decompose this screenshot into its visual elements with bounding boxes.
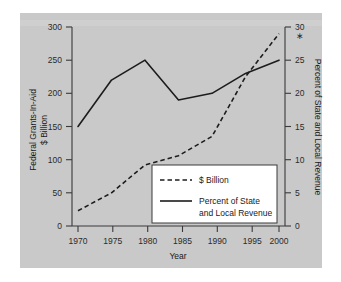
left-tick-label-0: 0 (57, 221, 62, 231)
bottom-tick-label-1990: 1990 (208, 236, 227, 246)
series-percent-of-state-and-local-revenue (78, 60, 279, 126)
x-axis-title: Year (169, 251, 186, 261)
right-tick-label-10: 10 (295, 155, 305, 165)
right-tick-label-5: 5 (295, 188, 300, 198)
left-tick-label-150: 150 (48, 122, 62, 132)
bottom-tick-label-1970: 1970 (69, 236, 88, 246)
right-tick-label-0: 0 (295, 221, 300, 231)
right-tick-label-20: 20 (295, 88, 305, 98)
left-tick-label-200: 200 (48, 88, 62, 98)
bottom-tick-label-2000: 2000 (270, 236, 289, 246)
right-axis: 0 5 10 15 20 25 30 ∗ Percent of State an… (285, 22, 323, 231)
left-tick-label-250: 250 (48, 55, 62, 65)
bottom-tick-label-1985: 1985 (173, 236, 192, 246)
right-tick-label-25: 25 (295, 55, 305, 65)
bottom-tick-label-1980: 1980 (138, 236, 157, 246)
bottom-tick-label-1995: 1995 (243, 236, 262, 246)
legend-label-percent-line2: and Local Revenue (199, 208, 273, 218)
bottom-axis: 1970 1975 1980 1985 1990 1995 2000 Year (69, 226, 289, 261)
left-axis: 0 50 100 150 200 250 300 Federal Grants-… (28, 22, 72, 231)
left-tick-label-50: 50 (53, 188, 63, 198)
chart-page: 0 50 100 150 200 250 300 Federal Grants-… (0, 0, 341, 282)
right-tick-label-15: 15 (295, 122, 305, 132)
right-axis-asterisk-annotation: ∗ (296, 31, 304, 41)
line-chart: 0 50 100 150 200 250 300 Federal Grants-… (0, 0, 341, 282)
legend-label-dollar-billion: $ Billion (199, 175, 229, 185)
right-axis-title: Percent of State and Local Revenue (313, 59, 323, 196)
chart-legend: $ Billion Percent of State and Local Rev… (152, 165, 277, 223)
legend-label-percent-line1: Percent of State (199, 196, 260, 206)
left-tick-label-100: 100 (48, 155, 62, 165)
bottom-tick-label-1975: 1975 (103, 236, 122, 246)
left-axis-title-line1: Federal Grants-In-Aid (28, 89, 38, 171)
left-axis-title-line2: $ Billion (39, 115, 49, 145)
left-tick-label-300: 300 (48, 22, 62, 32)
